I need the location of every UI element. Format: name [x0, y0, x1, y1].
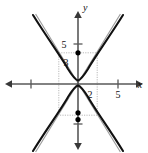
semi-axis-label-two: 2: [88, 89, 93, 100]
vertex-point-lower: [75, 110, 80, 115]
x-tick-label-five: 5: [116, 89, 121, 100]
vertex-point-upper: [75, 50, 80, 55]
coordinate-plane-svg: 5 3 2 5 x y: [0, 0, 148, 153]
y-axis-top-arrow-icon: [74, 11, 82, 18]
semi-axis-label-three: 3: [64, 57, 69, 68]
focus-point-lower: [75, 117, 80, 122]
y-axis-label: y: [82, 2, 88, 13]
x-axis-label: x: [137, 79, 143, 90]
x-axis-left-arrow-icon: [5, 80, 12, 88]
y-axis-bottom-arrow-icon: [74, 143, 82, 150]
y-tick-label-five: 5: [62, 39, 67, 50]
hyperbola-graph-figure: 5 3 2 5 x y: [0, 0, 148, 153]
